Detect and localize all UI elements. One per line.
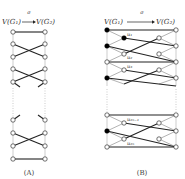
diagram-b-target-label: V(G₂) [156, 18, 175, 26]
diagram-a-target-label: V(G₂) [36, 18, 55, 26]
edge-label-u2: u₂ [127, 54, 132, 60]
diagram-b: σ V(G₁) V(G₂) [104, 9, 178, 177]
diagram-a-nodes [11, 30, 47, 161]
diagram-a-map-label: σ [27, 9, 31, 15]
diagram-a-edges [13, 32, 45, 159]
diagram-a-caption: (A) [24, 169, 35, 177]
edge-label-u1: u₁ [127, 31, 132, 37]
edge-label-u2n-1: u₂ₙ₋₁ [127, 116, 139, 122]
diagram-b-caption: (B) [137, 169, 148, 177]
diagram-a-source-label: V(G₁) [2, 18, 21, 26]
diagram-a: σ V(G₁) V(G₂) [2, 9, 55, 177]
diagram-b-filled-nodes [105, 28, 127, 134]
figure-canvas: σ V(G₁) V(G₂) [0, 0, 185, 179]
diagram-b-map-label: σ [140, 9, 144, 15]
diagram-b-source-label: V(G₁) [104, 18, 123, 26]
edge-label-u2n: u₂ₙ [127, 140, 134, 146]
diagram-b-thick-edges [107, 30, 176, 147]
edge-label-u3: u₃ [127, 63, 132, 69]
diagram-b-arrowhead-icon [152, 20, 155, 23]
